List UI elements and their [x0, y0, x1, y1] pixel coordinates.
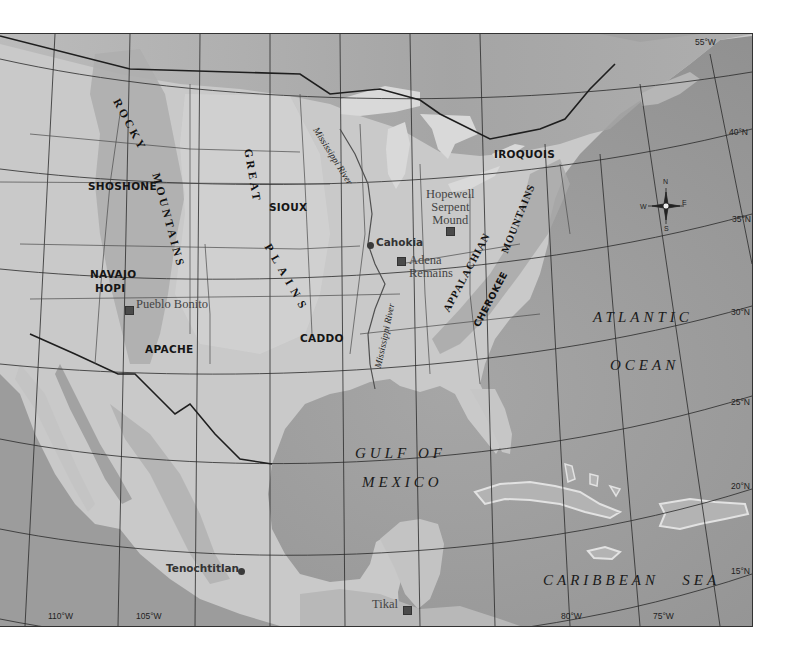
compass-rose: N S E W: [644, 180, 688, 232]
bahamas-2: [590, 474, 598, 486]
site-adena-line-2: Remains: [409, 267, 453, 280]
atlantic-ocean-label-2: OCEAN: [610, 358, 679, 373]
compass-east: E: [682, 199, 687, 206]
caribbean-sea-label: CARIBBEAN SEA: [543, 573, 720, 588]
compass-south: S: [664, 225, 669, 232]
cahokia-marker: [367, 242, 374, 249]
latitude-label-30n: 30°N: [731, 308, 750, 317]
hopewell-marker: [446, 227, 455, 236]
people-iroquois: IROQUOIS: [494, 149, 555, 160]
people-hopi: HOPI: [95, 283, 126, 294]
longitude-label-110w: 110°W: [48, 612, 73, 621]
site-cahokia: Cahokia: [376, 237, 423, 248]
latitude-label-40n: 40°N: [729, 128, 748, 137]
atlantic-ocean-label-1: ATLANTIC: [593, 310, 693, 325]
gulf-of-mexico-label-2: MEXICO: [362, 475, 443, 490]
people-navajo: NAVAJO: [90, 269, 136, 280]
people-apache: APACHE: [145, 344, 193, 355]
longitude-label-80w: 80°W: [561, 612, 582, 621]
longitude-label-55w: 55°W: [695, 38, 716, 47]
people-sioux: SIOUX: [269, 202, 308, 213]
people-caddo: CADDO: [300, 333, 344, 344]
tenochtitlan-marker: [238, 568, 245, 575]
site-tenochtitlan: Tenochtitlan: [166, 563, 239, 574]
site-hopewell-line-3: Mound: [426, 214, 475, 227]
site-adena-remains: Adena Remains: [409, 254, 453, 280]
site-pueblo-bonito: Pueblo Bonito: [136, 298, 208, 311]
compass-north: N: [663, 178, 668, 185]
map-base: [0, 34, 752, 626]
site-hopewell-serpent-mound: Hopewell Serpent Mound: [426, 188, 475, 227]
longitude-label-75w: 75°W: [653, 612, 674, 621]
adena-marker: [397, 257, 406, 266]
gulf-of-mexico-label-1: GULF OF: [355, 446, 446, 461]
latitude-label-15n: 15°N: [731, 567, 750, 576]
pueblo-bonito-marker: [125, 306, 134, 315]
longitude-label-105w: 105°W: [136, 612, 162, 621]
people-shoshone: SHOSHONE: [88, 181, 157, 192]
latitude-label-25n: 25°N: [731, 398, 750, 407]
map-frame: ROCKY MOUNTAINS GREAT PLAINS APPALACHIAN…: [0, 33, 753, 627]
site-tikal: Tikal: [372, 598, 398, 611]
compass-west: W: [640, 203, 647, 210]
tikal-marker: [403, 606, 412, 615]
latitude-label-35n: 35°N: [732, 215, 751, 224]
latitude-label-20n: 20°N: [731, 482, 750, 491]
